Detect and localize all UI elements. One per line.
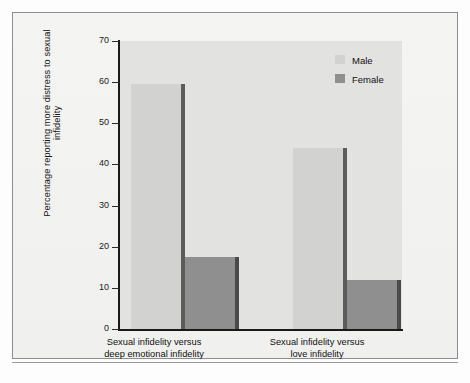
category-label-1-line2: deep emotional infidelity: [74, 348, 234, 360]
y-tick-label-40: 40: [87, 163, 109, 164]
figure-container: Percentage reporting more distress to se…: [0, 0, 470, 383]
category-label-2-line2: love infidelity: [237, 348, 397, 360]
y-tick-label-60: 60: [87, 81, 109, 82]
y-tick-30: [112, 206, 119, 207]
legend-entry-female: Female: [335, 70, 384, 89]
y-tick-label-20: 20: [87, 246, 109, 247]
bar-male-group-2: [293, 148, 347, 329]
y-axis-line: [118, 40, 120, 330]
legend-swatch-female-icon: [335, 74, 348, 85]
y-axis-title: Percentage reporting more distress to se…: [42, 23, 62, 223]
legend-swatch-male-icon: [335, 55, 348, 66]
bar-female-group-1: [185, 257, 239, 329]
y-tick-label-10: 10: [87, 287, 109, 288]
category-label-2-line1: Sexual infidelity versus: [237, 336, 397, 348]
y-tick-0: [112, 329, 119, 330]
x-axis-category-label-1: Sexual infidelity versus deep emotional …: [74, 336, 234, 360]
y-tick-40: [112, 164, 119, 165]
caption-divider: [12, 362, 458, 363]
bar-male-group-1: [131, 84, 185, 329]
legend-label-male: Male: [352, 55, 373, 66]
y-tick-70: [112, 41, 119, 42]
y-tick-label-50: 50: [87, 122, 109, 123]
chart-legend: Male Female: [335, 51, 384, 89]
y-tick-50: [112, 123, 119, 124]
y-tick-60: [112, 82, 119, 83]
legend-label-female: Female: [352, 74, 384, 85]
bar-female-group-2: [347, 280, 401, 329]
figure-frame: Percentage reporting more distress to se…: [12, 12, 458, 359]
y-tick-label-30: 30: [87, 205, 109, 206]
category-label-1-line1: Sexual infidelity versus: [74, 336, 234, 348]
y-tick-label-0: 0: [87, 328, 109, 329]
y-tick-10: [112, 288, 119, 289]
x-axis-line: [118, 329, 403, 331]
legend-entry-male: Male: [335, 51, 384, 70]
y-tick-label-70: 70: [87, 40, 109, 41]
x-axis-category-label-2: Sexual infidelity versus love infidelity: [237, 336, 397, 360]
y-tick-20: [112, 247, 119, 248]
